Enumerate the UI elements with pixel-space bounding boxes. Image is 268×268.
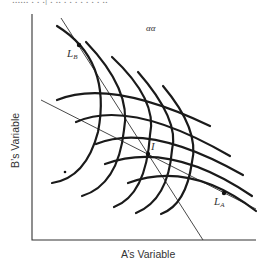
annotation-alpha: αα xyxy=(146,23,156,33)
x-axis-label: A’s Variable xyxy=(121,248,175,260)
label-la: LA xyxy=(213,195,225,209)
steep-line xyxy=(61,18,203,240)
label-i: I xyxy=(150,140,156,152)
label-lb: LB xyxy=(66,47,78,61)
point-la xyxy=(222,191,226,195)
point-i xyxy=(146,152,150,156)
dot-marker xyxy=(64,171,67,174)
y-axis-label: B’s Variable xyxy=(9,113,21,168)
point-lb xyxy=(77,43,81,47)
indifference-diagram: LB I LA αα A’s Variable B’s Variable xyxy=(0,0,268,268)
